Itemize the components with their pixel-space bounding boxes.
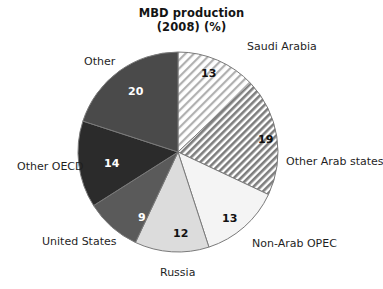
pie-slice-group xyxy=(78,52,278,252)
slice-category-label: Non-Arab OPEC xyxy=(252,237,337,250)
slice-category-label: Other xyxy=(84,55,115,68)
slice-value-label: 13 xyxy=(201,68,216,80)
pie-chart-figure: MBD production (2008) (%) 13Saudi Arabia… xyxy=(0,0,383,289)
slice-category-label: Other OECD xyxy=(17,160,84,173)
slice-value-label: 12 xyxy=(173,228,188,240)
slice-value-label: 9 xyxy=(138,212,146,224)
slice-category-label: United States xyxy=(42,235,117,248)
slice-value-label: 20 xyxy=(128,86,143,98)
slice-category-label: Other Arab states xyxy=(286,155,383,168)
slice-value-label: 13 xyxy=(222,213,237,225)
slice-value-label: 14 xyxy=(104,158,119,170)
slice-category-label: Russia xyxy=(160,266,195,279)
slice-category-label: Saudi Arabia xyxy=(247,40,317,53)
slice-value-label: 19 xyxy=(258,134,273,146)
